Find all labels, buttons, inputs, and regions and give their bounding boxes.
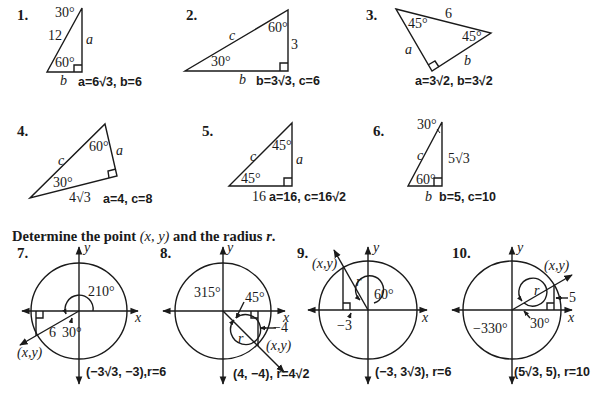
radius-label: r (356, 274, 361, 290)
angle-label: 30° (55, 5, 75, 21)
side-label: −4 (273, 320, 288, 336)
side-label: 5√3 (448, 151, 470, 167)
angle-label: 30° (211, 54, 231, 70)
problem-number-4: 4. (17, 123, 28, 140)
problem-number-2: 2. (186, 7, 197, 24)
answer-2: b=3√3, c=6 (256, 74, 320, 88)
side-b-label: b (239, 72, 246, 88)
side-label: 5 (569, 290, 576, 306)
answer-4: a=4, c=8 (103, 192, 152, 206)
circle-diagram-8 (163, 247, 285, 384)
side-a-label: a (405, 42, 412, 58)
side-b-label: b (425, 189, 432, 205)
heading-text: Determine the point (12, 228, 140, 244)
side-b-label: b (464, 53, 471, 69)
heading-period: . (272, 228, 276, 244)
section-heading: Determine the point (x, y) and the radiu… (12, 228, 275, 245)
point-label: (x,y) (17, 345, 42, 361)
point-label: (x,y) (266, 338, 291, 354)
angle-label: 60° (374, 287, 394, 303)
radius-label: r (534, 283, 539, 299)
radius-label: r (238, 331, 243, 347)
answer-8: (4, −4), r=4√2 (233, 367, 309, 381)
side-label: 3 (291, 37, 298, 53)
base-label: 4√3 (69, 190, 91, 206)
y-axis-label: y (84, 240, 90, 256)
x-axis-label: x (135, 310, 141, 326)
hypotenuse-label: 12 (48, 28, 62, 44)
side-a-label: a (86, 32, 93, 48)
problem-number-3: 3. (366, 7, 377, 24)
point-label: (x,y) (544, 258, 569, 274)
ref-angle-label: 30° (530, 316, 550, 332)
angle-label: 45° (462, 29, 482, 45)
ref-angle-label: 30° (62, 325, 82, 341)
heading-point: (x, y) (140, 228, 170, 244)
angle-label: 45° (272, 138, 292, 154)
y-axis-label: y (227, 240, 233, 256)
angle-label: 30° (53, 175, 73, 191)
angle-label: 30° (417, 117, 437, 133)
problem-number-8: 8. (160, 245, 171, 262)
angle-label: 45° (241, 171, 261, 187)
answer-6: b=5, c=10 (439, 190, 496, 204)
side-b-label: b (60, 73, 67, 89)
answer-10: (5√3, 5), r=10 (514, 365, 590, 379)
problem-number-6: 6. (373, 123, 384, 140)
answer-9: (−3, 3√3), r=6 (375, 365, 451, 379)
problem-number-9: 9. (297, 245, 308, 262)
angle-label: 315° (194, 285, 221, 301)
x-axis-label: x (422, 310, 428, 326)
angle-label: 210° (88, 284, 115, 300)
problem-number-10: 10. (452, 245, 471, 262)
hypotenuse-label: c (250, 149, 256, 165)
y-axis-label: y (517, 240, 523, 256)
hypotenuse-label: c (229, 28, 235, 44)
base-label: 16 (252, 189, 266, 205)
x-axis-label: x (568, 310, 574, 326)
side-a-label: a (296, 152, 303, 168)
problem-number-7: 7. (17, 245, 28, 262)
angle-label: 45° (408, 16, 428, 32)
angle-label: 60° (89, 139, 109, 155)
hypotenuse-label: c (58, 153, 64, 169)
y-axis-label: y (373, 240, 379, 256)
answer-3: a=3√2, b=3√2 (415, 74, 493, 88)
answer-5: a=16, c=16√2 (269, 190, 346, 204)
radius-label: 6 (49, 325, 56, 341)
hypotenuse-label: 6 (445, 6, 452, 22)
triangle-4 (30, 124, 117, 198)
angle-label: 60° (268, 20, 288, 36)
answer-1: a=6√3, b=6 (78, 75, 142, 89)
angle-label: −330° (473, 321, 508, 337)
heading-text: and the radius (169, 228, 266, 244)
point-label: (x,y) (312, 256, 337, 272)
problem-number-1: 1. (17, 7, 28, 24)
angle-label: 60° (416, 172, 436, 188)
hypotenuse-label: c (417, 148, 423, 164)
problem-number-5: 5. (202, 123, 213, 140)
side-a-label: a (116, 143, 123, 159)
side-label: −3 (337, 318, 352, 334)
answer-7: (−3√3, −3),r=6 (86, 365, 166, 379)
ref-angle-label: 45° (245, 290, 265, 306)
circle-diagram-7 (20, 247, 138, 384)
angle-label: 60° (55, 55, 75, 71)
